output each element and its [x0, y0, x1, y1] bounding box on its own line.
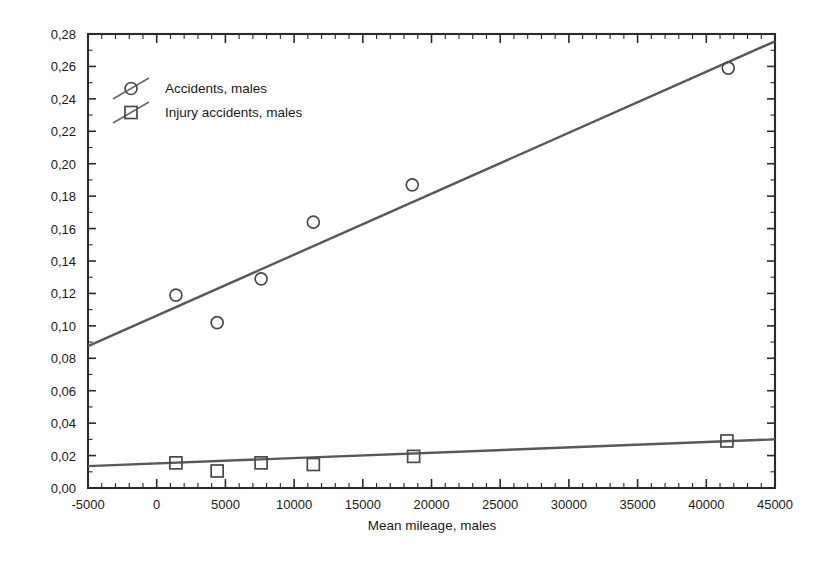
y-tick-label: 0,04 — [51, 416, 76, 431]
y-tick-label: 0,20 — [51, 157, 76, 172]
y-axis-tick-labels: 0,000,020,040,060,080,100,120,140,160,18… — [51, 27, 76, 496]
y-tick-label: 0,02 — [51, 449, 76, 464]
x-tick-label: 35000 — [620, 497, 656, 512]
x-tick-label: 20000 — [413, 497, 449, 512]
legend-label-accidents: Accidents, males — [165, 81, 267, 96]
y-tick-label: 0,08 — [51, 351, 76, 366]
y-tick-label: 0,14 — [51, 254, 76, 269]
y-tick-label: 0,06 — [51, 384, 76, 399]
y-tick-label: 0,22 — [51, 124, 76, 139]
x-tick-label: 0 — [153, 497, 160, 512]
y-tick-label: 0,12 — [51, 286, 76, 301]
y-tick-label: 0,18 — [51, 189, 76, 204]
y-tick-label: 0,10 — [51, 319, 76, 334]
y-tick-label: 0,24 — [51, 92, 76, 107]
x-tick-label: 45000 — [757, 497, 793, 512]
x-tick-label: 5000 — [211, 497, 240, 512]
figure-background — [0, 0, 817, 568]
legend-label-injury-accidents: Injury accidents, males — [165, 105, 303, 120]
x-axis-title: Mean mileage, males — [368, 518, 497, 533]
x-tick-label: 25000 — [482, 497, 518, 512]
x-tick-label: 15000 — [345, 497, 381, 512]
x-tick-label: 10000 — [276, 497, 312, 512]
x-tick-label: 30000 — [551, 497, 587, 512]
y-tick-label: 0,16 — [51, 222, 76, 237]
scatter-plot-figure: 0,000,020,040,060,080,100,120,140,160,18… — [0, 0, 817, 568]
x-tick-label: 40000 — [688, 497, 724, 512]
y-tick-label: 0,26 — [51, 59, 76, 74]
y-tick-label: 0,00 — [51, 481, 76, 496]
x-tick-label: -5000 — [71, 497, 104, 512]
y-tick-label: 0,28 — [51, 27, 76, 42]
